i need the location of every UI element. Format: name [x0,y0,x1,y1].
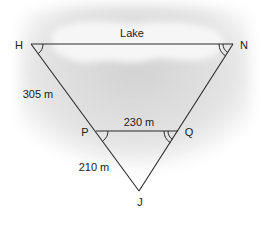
measure-PJ: 210 m [79,161,110,173]
measure-HP: 305 m [23,88,54,100]
point-label-P: P [81,126,88,138]
point-label-N: N [240,39,248,51]
point-label-Q: Q [185,126,194,138]
diagram-canvas: Lake H N P Q J 305 m 230 m 210 m [0,0,263,225]
point-label-J: J [137,196,143,208]
similar-triangles-diagram: Lake H N P Q J 305 m 230 m 210 m [0,0,263,225]
lake-label: Lake [120,27,144,39]
point-label-H: H [15,39,23,51]
measure-PQ: 230 m [124,116,155,128]
